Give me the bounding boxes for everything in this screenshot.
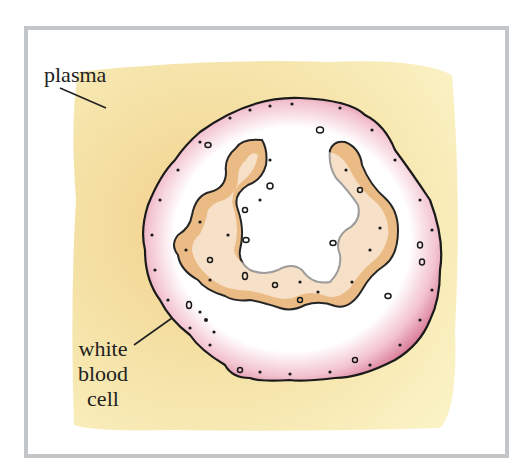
label-plasma: plasma — [44, 62, 106, 87]
label-wbc-line3: cell — [72, 386, 134, 411]
label-wbc-line1: white — [72, 336, 134, 361]
label-white-blood-cell: white blood cell — [72, 336, 134, 411]
label-wbc-line2: blood — [72, 361, 134, 386]
